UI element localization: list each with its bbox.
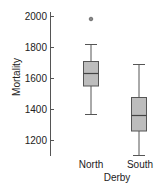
tick-1800: 1800 xyxy=(25,42,48,53)
x-axis-title: Derby xyxy=(104,172,131,183)
y-axis-title: Mortality xyxy=(11,58,22,96)
box-north xyxy=(84,17,99,114)
boxplot-chart: 2000 1800 1600 1400 1200 Mortality North… xyxy=(0,0,158,194)
y-ticks: 2000 1800 1600 1400 1200 xyxy=(25,11,54,146)
category-north: North xyxy=(79,159,103,170)
category-south: South xyxy=(127,159,153,170)
outlier-point xyxy=(89,17,93,21)
tick-1200: 1200 xyxy=(25,135,48,146)
tick-2000: 2000 xyxy=(25,11,48,22)
tick-1600: 1600 xyxy=(25,73,48,84)
box-south xyxy=(132,65,147,156)
tick-1400: 1400 xyxy=(25,104,48,115)
